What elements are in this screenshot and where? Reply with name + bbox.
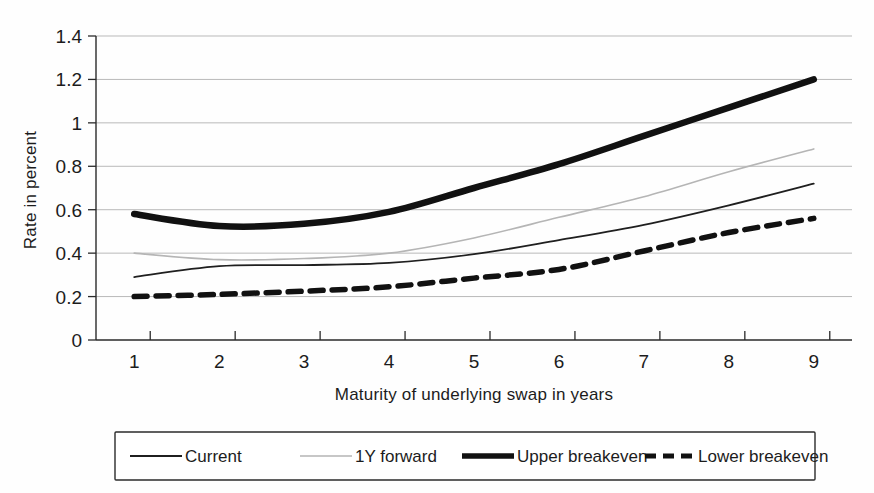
series-line-upper-breakeven <box>134 79 814 226</box>
x-tick-label-7: 7 <box>639 351 650 372</box>
x-tick-label-2: 2 <box>214 351 225 372</box>
legend-label-lower-breakeven: Lower breakeven <box>698 447 828 466</box>
x-tick-label-8: 8 <box>724 351 735 372</box>
y-tick-label-1.4: 1.4 <box>56 26 83 47</box>
legend-label-upper-breakeven: Upper breakeven <box>517 447 647 466</box>
y-tick-label-0: 0 <box>71 330 82 351</box>
y-tick-label-1: 1 <box>71 113 82 134</box>
y-tick-label-0.8: 0.8 <box>56 156 82 177</box>
x-tick-label-6: 6 <box>554 351 565 372</box>
y-axis-title: Rate in percent <box>21 131 40 249</box>
y-tick-label-0.2: 0.2 <box>56 287 82 308</box>
y-tick-label-1.2: 1.2 <box>56 69 82 90</box>
x-tick-label-3: 3 <box>299 351 310 372</box>
line-chart-canvas: 00.20.40.60.811.21.4 123456789 Rate in p… <box>0 0 874 493</box>
y-tick-label-0.4: 0.4 <box>56 243 83 264</box>
chart-figure: 00.20.40.60.811.21.4 123456789 Rate in p… <box>0 0 874 493</box>
legend-label-current: Current <box>185 447 242 466</box>
x-tick-label-group: 123456789 <box>129 351 819 372</box>
x-tick-label-9: 9 <box>808 351 819 372</box>
x-tick-group <box>150 331 830 340</box>
x-tick-label-4: 4 <box>384 351 395 372</box>
y-tick-label-0.6: 0.6 <box>56 200 82 221</box>
legend-label-1y-forward: 1Y forward <box>355 447 437 466</box>
x-tick-label-5: 5 <box>469 351 480 372</box>
series-line-1y-forward <box>134 149 814 260</box>
series-line-lower-breakeven <box>134 218 814 296</box>
y-tick-label-group: 00.20.40.60.811.21.4 <box>56 26 83 351</box>
x-tick-label-1: 1 <box>129 351 140 372</box>
x-axis-title: Maturity of underlying swap in years <box>335 385 613 404</box>
series-line-current <box>134 184 814 277</box>
gridlines-group <box>96 36 852 297</box>
y-tick-group <box>88 36 96 340</box>
series-group <box>134 79 814 296</box>
